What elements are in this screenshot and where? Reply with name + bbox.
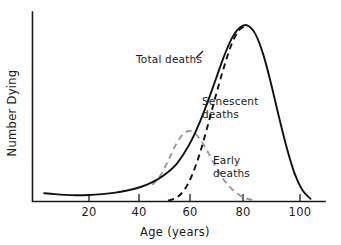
xtick-label-40: 40 — [131, 205, 146, 219]
label-early-deaths-line2: deaths — [213, 167, 250, 179]
curve-total-deaths — [44, 25, 310, 199]
x-axis-title: Age (years) — [140, 225, 210, 239]
xtick-label-100: 100 — [289, 205, 312, 219]
mortality-curve-chart: 20 40 60 80 100 Age (years) Number Dying… — [0, 0, 341, 245]
label-senescent-deaths-line1: Senescent — [202, 95, 259, 107]
label-total-deaths: Total deaths — [135, 53, 202, 65]
chart-figure: 20 40 60 80 100 Age (years) Number Dying… — [0, 0, 341, 245]
xtick-label-20: 20 — [81, 205, 96, 219]
chart-axes — [33, 12, 326, 202]
label-senescent-deaths-line2: deaths — [202, 108, 239, 120]
y-axis-title: Number Dying — [5, 70, 19, 157]
xtick-label-80: 80 — [235, 205, 250, 219]
xtick-label-60: 60 — [182, 205, 197, 219]
label-early-deaths-line1: Early — [213, 154, 241, 166]
